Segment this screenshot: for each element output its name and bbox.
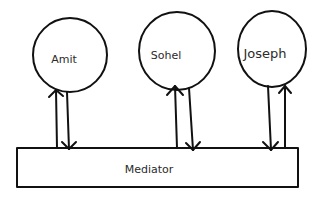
mediator-pattern-diagram: Amit Sohel Joseph Mediator [0, 0, 322, 198]
node-sohel-label: Sohel [151, 49, 182, 62]
arrow-mediator-to-sohel [167, 86, 183, 148]
node-joseph-label: Joseph [243, 46, 286, 61]
mediator-label: Mediator [125, 163, 174, 176]
node-amit-label: Amit [51, 53, 77, 66]
arrow-mediator-to-amit [49, 90, 63, 148]
arrow-mediator-to-joseph [279, 86, 291, 148]
arrow-amit-to-mediator [62, 92, 76, 149]
arrow-joseph-to-mediator [263, 86, 278, 150]
arrow-sohel-to-mediator [186, 88, 200, 150]
